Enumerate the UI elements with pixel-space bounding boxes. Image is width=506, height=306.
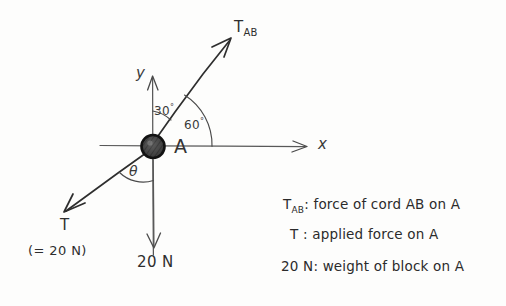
angle-60-degree-symbol: °	[200, 117, 204, 126]
legend-1-subscript: AB	[291, 205, 304, 215]
x-axis-label: x	[318, 135, 327, 153]
diagram-canvas: x y A 30° 60° θ TAB T (= 20 N) 20 N TAB:…	[0, 0, 506, 306]
legend-line-3: 20 N: weight of block on A	[281, 258, 464, 274]
vector-label-weight: 20 N	[137, 253, 174, 271]
legend-2-separator: :	[303, 226, 308, 242]
angle-label-theta: θ	[129, 163, 138, 179]
vector-T-value-note: (= 20 N)	[28, 243, 87, 258]
legend-line-2: T : applied force on A	[290, 226, 439, 242]
vector-T-AB-base: T	[234, 18, 244, 36]
legend-line-1: TAB: force of cord AB on A	[283, 196, 460, 215]
vector-T-AB-subscript: AB	[244, 27, 258, 38]
legend-1-separator: :	[304, 196, 309, 212]
angle-label-30: 30°	[154, 103, 174, 118]
vector-T	[64, 153, 146, 212]
legend-2-symbol: T	[290, 226, 298, 242]
angle-30-degree-symbol: °	[170, 103, 174, 112]
legend-1-text: force of cord AB on A	[313, 196, 460, 212]
x-axis	[100, 141, 307, 152]
vector-label-T-AB: TAB	[234, 18, 257, 38]
angle-label-60: 60°	[184, 117, 204, 132]
legend-2-text: applied force on A	[312, 226, 438, 242]
angle-60-value: 60	[184, 118, 200, 132]
legend-3-text: weight of block on A	[323, 258, 465, 274]
vector-weight	[147, 160, 161, 248]
vector-label-T: T	[60, 216, 70, 234]
point-label-A: A	[174, 135, 187, 157]
point-A-marker	[142, 135, 165, 158]
legend-3-symbol: 20 N	[281, 258, 313, 274]
angle-30-value: 30	[154, 104, 170, 118]
y-axis-label: y	[136, 64, 145, 82]
legend-3-separator: :	[313, 258, 318, 274]
